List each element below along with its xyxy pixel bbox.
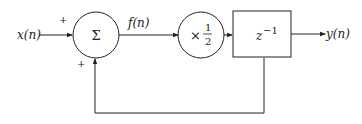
- times-symbol: ×: [190, 28, 201, 43]
- gain-denominator: 2: [205, 36, 211, 47]
- fn-label: f(n): [127, 16, 150, 30]
- output-label: y(n): [325, 27, 350, 41]
- delay-base: z: [255, 29, 263, 43]
- delay-block: z −1: [233, 11, 291, 57]
- plus-sign-top: +: [59, 14, 67, 25]
- delay-exponent: −1: [263, 25, 278, 36]
- block-diagram: x(n) + + Σ f(n) × 1 2 z −1 y(n): [0, 0, 362, 124]
- gain-node: × 1 2: [178, 12, 224, 58]
- input-label: x(n): [17, 28, 41, 42]
- plus-sign-bottom: +: [77, 58, 85, 69]
- feedback-path: [95, 58, 264, 113]
- sigma-symbol: Σ: [91, 28, 100, 43]
- gain-numerator: 1: [205, 22, 211, 33]
- summer-node: Σ: [73, 12, 119, 58]
